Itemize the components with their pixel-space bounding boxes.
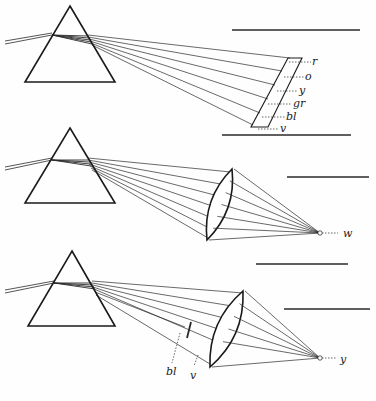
converging-ray [234,169,320,233]
panel-blocked-blue-violet-yellow: yblv [5,251,370,382]
dispersed-ray [88,160,226,185]
converging-ray [223,342,320,358]
prism-triangle [25,6,115,82]
spectrum-label-v: v [280,122,287,135]
optics-diagram: roygrblvwyblv [0,0,376,401]
converging-ray [226,193,320,233]
spectrum-label-bl: bl [286,110,297,123]
spectrum-label-o: o [305,70,312,83]
converging-ray [222,205,321,234]
blocked-label-bl: bl [166,365,177,378]
light-stop-bar [187,322,191,338]
incident-ray [5,283,54,293]
incident-ray [5,158,52,167]
converging-ray [245,291,320,358]
dispersed-ray [91,43,260,113]
focal-point [318,231,322,235]
spectrum-label-y: y [298,84,306,97]
prism-dispersion-figure: roygrblvwyblv [0,0,376,401]
converging-ray [230,181,320,233]
dispersed-ray [88,158,231,172]
panel-spectrum-on-screen: roygrblv [5,6,360,135]
drop-leader [172,333,180,363]
converging-ray [240,304,321,358]
focus-label-y: y [339,353,347,366]
blocked-label-v: v [190,369,197,382]
spectrum-label-r: r [312,55,318,68]
dispersed-ray [96,295,210,364]
incident-ray [5,281,54,290]
converging-ray [229,329,321,358]
dispersed-ray [92,45,253,125]
converging-ray [209,233,320,240]
focus-label-w: w [343,227,353,240]
converging-ray [212,358,320,367]
prism-triangle [28,251,115,326]
dispersed-ray [89,164,218,208]
dispersed-ray [92,170,208,238]
converging-ray [234,316,320,358]
dispersed-ray [91,168,211,229]
dispersed-ray [90,41,268,99]
convex-lens [210,291,243,367]
focal-point [318,356,322,360]
panel-recombined-white: w [5,128,369,240]
spectrum-label-gr: gr [293,97,306,110]
convex-lens [206,169,232,240]
